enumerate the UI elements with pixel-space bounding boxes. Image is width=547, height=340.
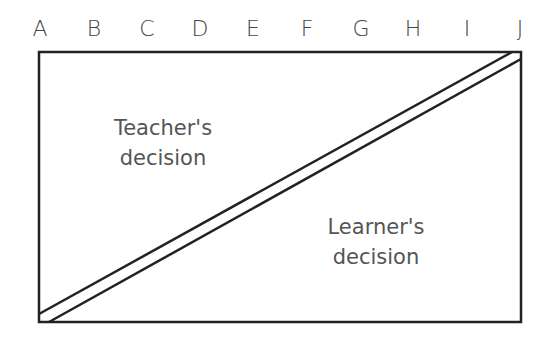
teacher-decision-label: Teacher's decision: [114, 113, 212, 173]
diagram-box: [39, 52, 521, 322]
decision-diagram: [0, 0, 547, 340]
learner-label-line2: decision: [328, 242, 425, 272]
diagonal-lower-line: [49, 59, 521, 322]
learner-decision-label: Learner's decision: [328, 212, 425, 272]
teacher-label-line2: decision: [114, 143, 212, 173]
diagonal-upper-line: [39, 52, 512, 314]
teacher-label-line1: Teacher's: [114, 113, 212, 143]
learner-label-line1: Learner's: [328, 212, 425, 242]
